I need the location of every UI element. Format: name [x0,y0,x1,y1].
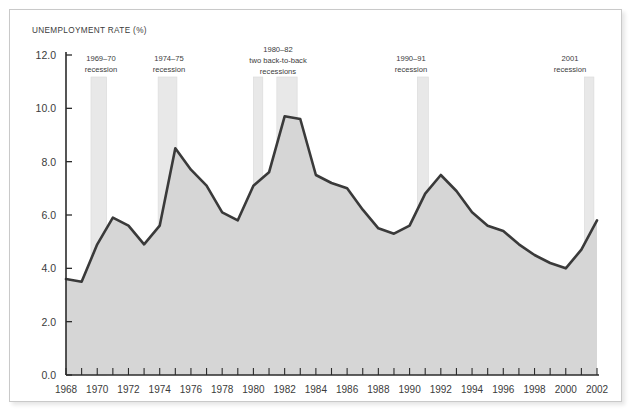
x-tick-label: 1970 [86,384,109,395]
recession-labels-group: 1969–70 recession 1974–75 recession 1980… [85,45,587,76]
x-tick-label: 1968 [55,384,78,395]
recession-label-1980-line3: recessions [260,67,296,76]
x-tick-label: 1982 [274,384,297,395]
x-tick-label: 1980 [242,384,265,395]
x-tick-label: 1986 [336,384,359,395]
x-tick-label: 1974 [149,384,172,395]
x-tick-label: 1978 [211,384,234,395]
recession-label-1990-line1: 1990–91 [396,54,426,63]
chart-plot-area: 0.02.04.06.08.010.012.0 1968197019721974… [0,0,637,419]
recession-label-1974-line1: 1974–75 [154,54,184,63]
chart-title: UNEMPLOYMENT RATE (%) [32,26,147,35]
y-tick-label: 12.0 [36,49,57,61]
recession-label-1980-line2: two back-to-back [249,56,307,65]
x-tick-label: 1988 [367,384,390,395]
recession-label-1990-line2: recession [395,65,428,74]
y-tick-label: 10.0 [36,102,57,114]
y-tick-label: 6.0 [41,209,56,221]
x-tick-label: 1996 [492,384,515,395]
recession-label-2001-line2: recession [554,65,587,74]
y-tick-label: 8.0 [41,156,56,168]
recession-label-1974-line2: recession [153,65,186,74]
unemployment-rate-area-chart: 0.02.04.06.08.010.012.0 1968197019721974… [0,0,637,419]
recession-label-1980-line1: 1980–82 [263,45,293,54]
x-tick-label: 1984 [305,384,328,395]
x-tick-label: 1998 [523,384,546,395]
x-tick-label: 1976 [180,384,203,395]
x-tick-label: 1972 [117,384,140,395]
x-tick-label: 2000 [555,384,578,395]
recession-label-1969-line2: recession [85,65,118,74]
y-tick-label: 0.0 [41,369,56,381]
x-tick-label: 2002 [586,384,609,395]
chart-figure: 0.02.04.06.08.010.012.0 1968197019721974… [0,0,637,419]
y-tick-label: 2.0 [41,316,56,328]
y-tick-label: 4.0 [41,262,56,274]
x-tick-label: 1992 [430,384,453,395]
recession-label-2001-line1: 2001 [562,54,579,63]
x-tick-label: 1994 [461,384,484,395]
unemployment-area-fill [66,116,597,375]
x-tick-label: 1990 [398,384,421,395]
recession-label-1969-line1: 1969–70 [86,54,116,63]
